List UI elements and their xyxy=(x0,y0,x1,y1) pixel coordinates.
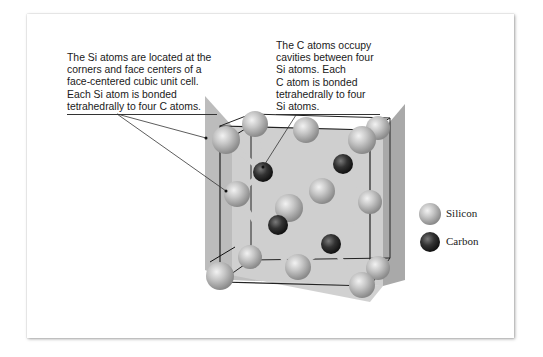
silicon-caption: The Si atoms are located at the corners … xyxy=(67,52,217,115)
legend xyxy=(419,203,441,252)
silicon-atom-icon xyxy=(419,203,441,225)
carbon-atom-icon xyxy=(420,232,440,252)
legend-label-silicon: Silicon xyxy=(446,207,477,219)
carbon-caption: The C atoms occupy cavities between four… xyxy=(276,40,380,115)
legend-label-carbon: Carbon xyxy=(446,235,478,247)
